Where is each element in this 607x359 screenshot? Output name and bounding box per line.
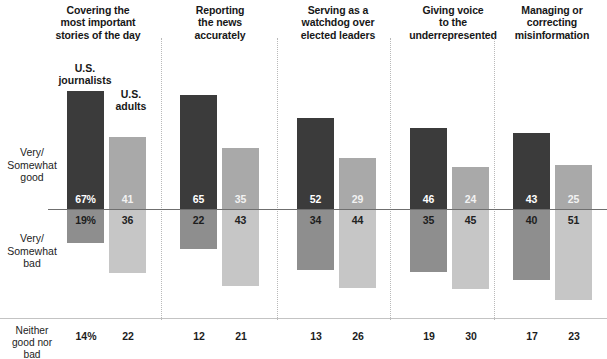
bar-value-label: 35 [410, 214, 447, 226]
legend-label-line: U.S. [100, 88, 162, 100]
bar-adults-bad-3[interactable]: 45 [452, 210, 489, 289]
column-header-line: to the [396, 16, 510, 28]
column-header-line: underrepresented [396, 29, 510, 41]
axis-label-line: good nor [1, 337, 63, 349]
bar-value-label: 46 [410, 193, 447, 205]
column-header-4: Managing or correcting misinformation [498, 4, 606, 41]
column-separator [494, 38, 495, 320]
column-header-line: elected leaders [282, 29, 394, 41]
bar-value-label: 44 [339, 214, 376, 226]
bar-value-label: 36 [109, 214, 146, 226]
bar-value-label: 41 [109, 193, 146, 205]
bar-value-label: 51 [555, 214, 592, 226]
bar-value-label: 19% [67, 214, 104, 226]
column-header-line: misinformation [498, 29, 606, 41]
bar-value-label: 35 [222, 193, 259, 205]
neither-adults-0: 22 [108, 330, 148, 342]
bottom-divider [0, 318, 607, 319]
bar-value-label: 43 [222, 214, 259, 226]
neither-adults-3: 30 [451, 330, 491, 342]
bar-journalists-bad-2[interactable]: 34 [297, 210, 334, 270]
column-header-1: Reporting the news accurately [165, 4, 275, 41]
column-header-3: Giving voice to the underrepresented [396, 4, 510, 41]
column-header-0: Covering the most important stories of t… [34, 4, 162, 41]
column-header-line: Covering the [34, 4, 162, 16]
bar-value-label: 67% [67, 193, 104, 205]
neither-journalists-0: 14% [66, 330, 106, 342]
legend-journalists: U.S. journalists [52, 62, 118, 86]
bar-value-label: 34 [297, 214, 334, 226]
bar-adults-good-3[interactable]: 24 [452, 167, 489, 209]
bar-journalists-bad-1[interactable]: 22 [180, 210, 217, 249]
bar-value-label: 29 [339, 193, 376, 205]
neither-journalists-1: 12 [179, 330, 219, 342]
neither-adults-1: 21 [221, 330, 261, 342]
bar-journalists-good-0[interactable]: 67% [67, 91, 104, 209]
bar-adults-good-1[interactable]: 35 [222, 148, 259, 209]
bar-adults-bad-4[interactable]: 51 [555, 210, 592, 300]
column-header-line: most important [34, 16, 162, 28]
column-separator [161, 38, 162, 320]
column-header-2: Serving as a watchdog over elected leade… [282, 4, 394, 41]
bar-adults-bad-2[interactable]: 44 [339, 210, 376, 288]
bar-journalists-good-4[interactable]: 43 [513, 133, 550, 209]
diverging-bar-chart: Covering the most important stories of t… [0, 0, 607, 359]
bar-adults-bad-1[interactable]: 43 [222, 210, 259, 286]
neither-journalists-2: 13 [296, 330, 336, 342]
legend-label-line: journalists [52, 74, 118, 86]
bar-value-label: 65 [180, 193, 217, 205]
column-header-line: Reporting [165, 4, 275, 16]
axis-label-bad: Very/ Somewhat bad [1, 232, 63, 270]
bar-value-label: 52 [297, 193, 334, 205]
bar-adults-bad-0[interactable]: 36 [109, 210, 146, 273]
bar-value-label: 24 [452, 193, 489, 205]
bar-value-label: 22 [180, 214, 217, 226]
column-header-line: Managing or [498, 4, 606, 16]
legend-adults: U.S. adults [100, 88, 162, 112]
neither-adults-4: 23 [554, 330, 594, 342]
bar-adults-good-4[interactable]: 25 [555, 165, 592, 209]
bar-value-label: 25 [555, 193, 592, 205]
neither-adults-2: 26 [338, 330, 378, 342]
legend-label-line: U.S. [52, 62, 118, 74]
bar-journalists-bad-3[interactable]: 35 [410, 210, 447, 272]
axis-label-line: Very/ [1, 146, 63, 159]
axis-label-line: bad [1, 349, 63, 359]
column-header-line: Giving voice [396, 4, 510, 16]
bar-adults-good-0[interactable]: 41 [109, 137, 146, 209]
bar-value-label: 45 [452, 214, 489, 226]
column-header-line: stories of the day [34, 29, 162, 41]
bar-journalists-bad-0[interactable]: 19% [67, 210, 104, 243]
neither-journalists-4: 17 [512, 330, 552, 342]
bar-value-label: 43 [513, 193, 550, 205]
column-separator [277, 38, 278, 320]
column-header-line: the news [165, 16, 275, 28]
legend-label-line: adults [100, 100, 162, 112]
zero-baseline [48, 209, 607, 210]
axis-label-line: Somewhat [1, 159, 63, 172]
bar-adults-good-2[interactable]: 29 [339, 158, 376, 209]
column-header-line: watchdog over [282, 16, 394, 28]
neither-journalists-3: 19 [409, 330, 449, 342]
axis-label-line: good [1, 171, 63, 184]
column-header-line: Serving as a [282, 4, 394, 16]
axis-label-neither: Neither good nor bad [1, 325, 63, 359]
bar-journalists-good-2[interactable]: 52 [297, 118, 334, 209]
bar-journalists-bad-4[interactable]: 40 [513, 210, 550, 280]
axis-label-good: Very/ Somewhat good [1, 146, 63, 184]
axis-label-line: bad [1, 257, 63, 270]
axis-label-line: Very/ [1, 232, 63, 245]
column-header-line: correcting [498, 16, 606, 28]
bar-value-label: 40 [513, 214, 550, 226]
column-header-line: accurately [165, 29, 275, 41]
bar-journalists-good-1[interactable]: 65 [180, 95, 217, 209]
column-separator [390, 38, 391, 320]
axis-label-line: Neither [1, 325, 63, 337]
bar-journalists-good-3[interactable]: 46 [410, 128, 447, 209]
axis-label-line: Somewhat [1, 245, 63, 258]
